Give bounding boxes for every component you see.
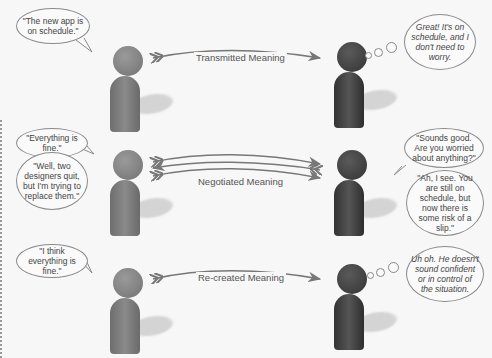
thought-puff: [376, 268, 385, 277]
thought-puff: [388, 262, 399, 273]
bubble-text: Uh oh. He doesn't sound confident or in …: [411, 254, 479, 294]
speaker-speech-bubble: "I think everything is fine.": [16, 244, 88, 278]
listener-thought-bubble: Great! It's on schedule, and I don't nee…: [404, 14, 476, 70]
speaker-speech-bubble: "The new app is on schedule.": [16, 8, 90, 44]
transmitted-meaning-label: Transmitted Meaning: [194, 52, 287, 63]
bubble-text: "Well, two designers quit, but I'm tryin…: [21, 161, 83, 201]
thought-puff: [365, 52, 372, 59]
bubble-text: "The new app is on schedule.": [21, 16, 85, 36]
re-created-meaning-label: Re-created Meaning: [196, 272, 286, 283]
listener-thought-bubble: Uh oh. He doesn't sound confident or in …: [406, 246, 484, 302]
listener-speech-bubble: "Sounds good. Are you worried about anyt…: [404, 128, 484, 168]
listener-speech-bubble: "Ah, I see. You are still on schedule, b…: [406, 170, 484, 236]
bubble-text: "Sounds good. Are you worried about anyt…: [409, 133, 479, 163]
thought-puff: [367, 272, 374, 279]
bubble-text: "Everything is fine.": [21, 133, 83, 153]
bubble-text: "Ah, I see. You are still on schedule, b…: [411, 173, 479, 233]
negotiated-meaning-label: Negotiated Meaning: [196, 176, 285, 187]
thought-puff: [386, 42, 397, 53]
communication-diagram: "The new app is on schedule." Transmitte…: [0, 0, 492, 358]
thought-puff: [374, 48, 383, 57]
speaker-speech-bubble: "Well, two designers quit, but I'm tryin…: [16, 152, 88, 210]
bubble-text: Great! It's on schedule, and I don't nee…: [409, 22, 471, 62]
bubble-text: "I think everything is fine.": [21, 246, 83, 276]
